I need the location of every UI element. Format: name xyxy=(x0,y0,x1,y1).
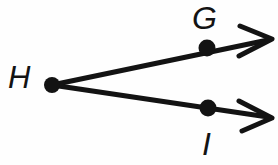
ray-hg-line xyxy=(52,40,268,85)
angle-diagram-figure: H G I xyxy=(0,0,278,165)
angle-diagram-canvas xyxy=(0,0,278,165)
ray-hi-line xyxy=(52,85,268,117)
point-label-h: H xyxy=(8,62,30,93)
point-i-dot xyxy=(200,100,217,117)
point-g-dot xyxy=(199,40,216,57)
point-label-i: I xyxy=(202,128,211,160)
point-label-g: G xyxy=(192,2,217,34)
point-h-dot xyxy=(44,77,60,93)
